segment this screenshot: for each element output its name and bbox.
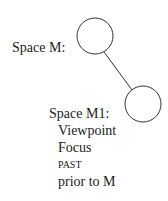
connector-line	[104, 52, 132, 90]
space-m-circle	[77, 18, 113, 54]
focus-text: Focus	[58, 139, 91, 156]
space-m1-label: Space M1:	[49, 105, 109, 122]
space-m1-circle	[125, 86, 161, 122]
viewpoint-text: Viewpoint	[58, 122, 116, 139]
prior-to-m-text: prior to M	[58, 173, 116, 190]
space-m-label: Space M:	[12, 39, 65, 56]
mental-space-diagram	[0, 0, 168, 201]
past-text: PAST	[58, 156, 82, 173]
